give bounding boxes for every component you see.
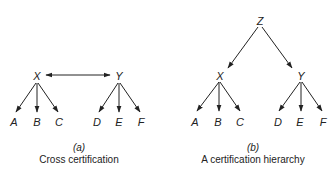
edge-x-c [220, 82, 240, 111]
caption-label-a: (a) [73, 142, 85, 153]
node-a: A [9, 116, 17, 128]
node-f: F [138, 116, 146, 128]
node-e: E [296, 116, 304, 128]
node-c: C [55, 116, 63, 128]
edge-y-d [279, 82, 300, 111]
edge-y-d [99, 83, 118, 112]
edge-x-a [16, 83, 36, 112]
edge-x-c [38, 83, 58, 112]
node-y: Y [297, 70, 305, 82]
edge-z-x [228, 27, 258, 68]
certification-diagrams: X Y A B C D E F (a) Cross certification … [0, 0, 333, 175]
node-x: X [32, 70, 41, 82]
node-c: C [236, 116, 244, 128]
diagram-a-cross-certification: X Y A B C D E F (a) Cross certification [9, 70, 145, 165]
caption-a: Cross certification [39, 154, 118, 165]
edge-x-a [197, 82, 219, 111]
caption-b: A certification hierarchy [201, 154, 304, 165]
edge-y-f [302, 82, 322, 111]
edge-y-f [120, 83, 140, 112]
node-f: F [320, 116, 328, 128]
node-b: B [33, 116, 40, 128]
node-e: E [115, 116, 123, 128]
edge-z-y [262, 27, 292, 68]
caption-label-b: (b) [247, 142, 259, 153]
node-x: X [215, 70, 224, 82]
node-d: D [93, 116, 101, 128]
node-a: A [190, 116, 198, 128]
node-y: Y [115, 70, 123, 82]
node-z: Z [256, 15, 265, 27]
node-b: B [214, 116, 221, 128]
node-d: D [274, 116, 282, 128]
diagram-b-certification-hierarchy: Z X Y A B C D E F (b) A certification hi… [190, 15, 327, 165]
